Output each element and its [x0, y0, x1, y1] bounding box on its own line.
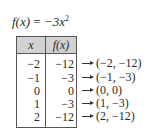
exponent: 2: [65, 14, 69, 23]
header-fx: f(x): [46, 37, 76, 53]
function-definition: f(x) = −3x2: [12, 11, 69, 30]
right-arrow-icon: [82, 71, 94, 84]
cell-fx: −12: [55, 58, 74, 71]
equals-sign: =: [33, 14, 40, 29]
function-lhs: f(x): [12, 14, 30, 29]
right-arrow-icon: [82, 57, 94, 70]
right-arrow-icon: [82, 84, 94, 97]
function-rhs: −3x: [44, 14, 65, 29]
cell-x: −2: [27, 58, 40, 71]
right-arrow-icon: [82, 97, 94, 110]
header-x: x: [17, 37, 45, 53]
cell-fx: −12: [55, 111, 74, 124]
right-arrow-icon: [82, 110, 94, 123]
point-label: (−2, −12): [96, 57, 142, 70]
cell-x: 2: [34, 111, 40, 124]
point-label: (2, −12): [96, 110, 135, 123]
value-table: x f(x) −2 −12 −1 −3 0 0 1 −3 2 −12: [16, 36, 77, 128]
